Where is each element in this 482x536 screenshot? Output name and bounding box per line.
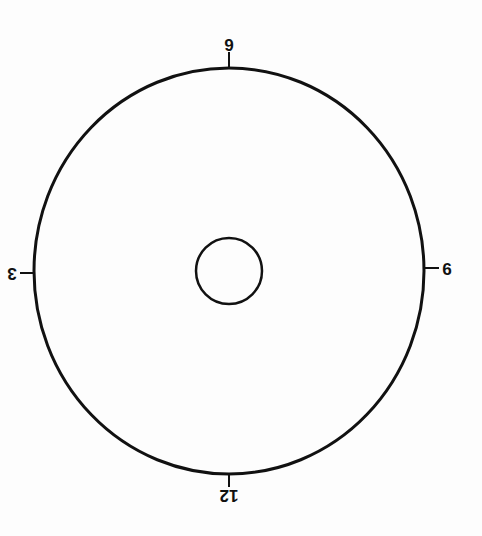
- outer-circle: [34, 68, 424, 474]
- diagram-canvas: 6 12 3 9: [0, 0, 482, 536]
- label-nine: 9: [442, 259, 451, 278]
- label-twelve: 12: [220, 486, 239, 505]
- label-three: 3: [7, 264, 16, 283]
- clock-dial-diagram: 6 12 3 9: [0, 0, 482, 536]
- label-six: 6: [224, 35, 233, 54]
- inner-circle: [196, 238, 262, 304]
